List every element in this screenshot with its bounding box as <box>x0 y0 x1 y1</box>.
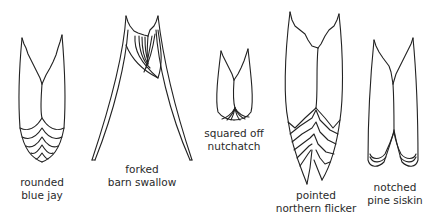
label-notched: notched pine siskin <box>367 181 423 207</box>
tail-shape-name: rounded <box>20 176 64 189</box>
bird-species-name: northern flicker <box>276 202 357 215</box>
tail-shape-name: forked <box>108 163 177 176</box>
label-forked: forked barn swallow <box>108 163 177 189</box>
bird-species-name: pine siskin <box>367 194 423 207</box>
label-pointed: pointed northern flicker <box>276 189 357 215</box>
tail-shape-name: pointed <box>276 189 357 202</box>
forked-tail-drawing <box>92 16 192 160</box>
tail-shape-name: squared off <box>204 127 263 140</box>
pointed-tail-drawing <box>285 12 342 184</box>
label-squared-off: squared off nutchatch <box>204 127 263 153</box>
label-rounded: rounded blue jay <box>20 176 64 202</box>
bird-species-name: blue jay <box>20 189 64 202</box>
squared-off-tail-drawing <box>217 49 252 120</box>
notched-tail-drawing <box>368 38 418 166</box>
rounded-tail-drawing <box>19 35 65 162</box>
bird-species-name: nutchatch <box>204 140 263 153</box>
bird-species-name: barn swallow <box>108 176 177 189</box>
tail-shape-name: notched <box>367 181 423 194</box>
